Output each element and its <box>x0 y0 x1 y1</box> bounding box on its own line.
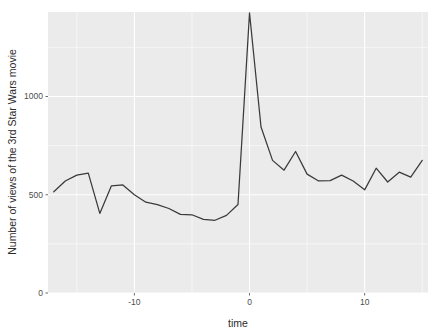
chart-container: 05001000 -10010 time Number of views of … <box>0 0 445 332</box>
x-axis-title: time <box>228 317 248 329</box>
x-axis-ticks: -10010 <box>128 293 369 307</box>
x-tick-label: 10 <box>360 297 370 307</box>
x-tick-label: 0 <box>247 297 252 307</box>
y-tick-label: 1000 <box>24 91 43 101</box>
y-axis-ticks: 05001000 <box>24 91 48 298</box>
plot-panel-background <box>48 12 428 293</box>
line-chart: 05001000 -10010 time Number of views of … <box>0 0 445 332</box>
y-axis-title: Number of views of the 3rd Star Wars mov… <box>6 49 18 255</box>
y-tick-label: 500 <box>29 190 43 200</box>
x-tick-label: -10 <box>128 297 141 307</box>
y-tick-label: 0 <box>38 288 43 298</box>
